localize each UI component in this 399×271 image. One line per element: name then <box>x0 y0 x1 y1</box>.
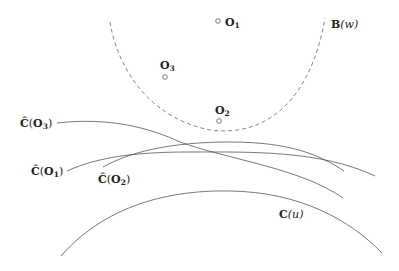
label-o3: O3 <box>160 59 175 73</box>
curve-c-hat-o2 <box>103 142 344 171</box>
label-c-u: C(u) <box>279 208 303 221</box>
point-o2-marker <box>217 119 222 124</box>
label-c-hat-o2: Ĉ(O2) <box>98 172 130 187</box>
curve-c-u <box>61 191 382 256</box>
label-c-hat-o3: Ĉ(O3) <box>20 116 52 131</box>
label-o1: O1 <box>225 16 240 30</box>
diagram-canvas: O1 O3 O2 B(w) Ĉ(O3) Ĉ(O1) Ĉ(O2) C(u) <box>0 0 399 271</box>
point-o3-marker <box>163 75 168 80</box>
label-ball-bw: B(w) <box>331 18 358 31</box>
label-o2: O2 <box>215 104 230 118</box>
label-c-hat-o1: Ĉ(O1) <box>31 164 63 179</box>
point-o1-marker <box>216 19 221 24</box>
